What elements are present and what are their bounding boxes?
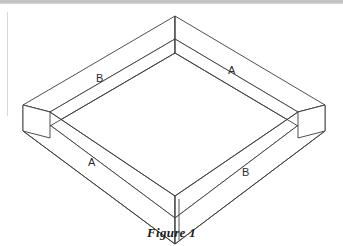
figure-caption: Figure 1 xyxy=(0,225,343,241)
frame-isometric-drawing: B A A B xyxy=(0,0,343,246)
figure-container: B A A B Figure 1 xyxy=(0,0,343,246)
rail-label-upper-left: B xyxy=(96,72,104,84)
rail-label-lower-right: B xyxy=(242,166,250,178)
rail-label-lower-left: A xyxy=(88,156,96,168)
rail-label-upper-right: A xyxy=(228,64,236,76)
